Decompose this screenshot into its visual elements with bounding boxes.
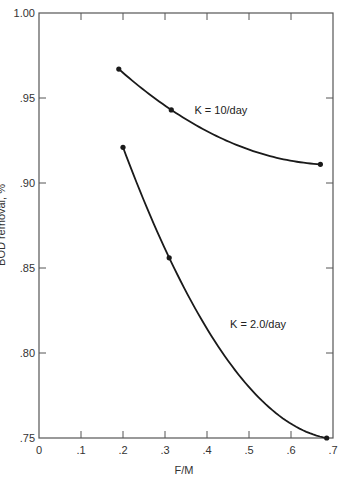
x-axis-ticks: 0.1.2.3.4.5.6.7 <box>36 13 338 456</box>
data-point <box>169 107 174 112</box>
x-tick-label: .5 <box>244 444 253 456</box>
curve-annotations: K = 10/dayK = 2.0/day <box>194 104 286 330</box>
y-tick-label: .80 <box>20 347 35 359</box>
bod-removal-chart: .75.80.85.90.951.00 0.1.2.3.4.5.6.7 K = … <box>0 0 344 484</box>
x-tick-label: 0 <box>36 444 42 456</box>
y-tick-label: 1.00 <box>14 7 35 19</box>
x-tick-label: .2 <box>118 444 127 456</box>
y-tick-label: .85 <box>20 262 35 274</box>
data-point <box>120 145 125 150</box>
x-tick-label: .3 <box>160 444 169 456</box>
data-point <box>167 255 172 260</box>
data-point <box>116 67 121 72</box>
plot-frame <box>39 13 333 438</box>
x-axis-title: F/M <box>175 464 194 476</box>
x-tick-label: .7 <box>328 444 337 456</box>
plot-border <box>39 13 333 438</box>
curve-label-1: K = 10/day <box>194 104 247 116</box>
x-tick-label: .6 <box>286 444 295 456</box>
data-points <box>116 67 329 441</box>
data-curves <box>119 69 327 438</box>
curve-series-2 <box>123 147 327 438</box>
x-tick-label: .4 <box>202 444 211 456</box>
x-tick-label: .1 <box>76 444 85 456</box>
curve-series-1 <box>119 69 321 164</box>
y-tick-label: .95 <box>20 92 35 104</box>
y-axis-title: BOD removal, % <box>0 184 7 266</box>
curve-label-2: K = 2.0/day <box>230 318 286 330</box>
y-tick-label: .75 <box>20 432 35 444</box>
y-tick-label: .90 <box>20 177 35 189</box>
y-axis-ticks: .75.80.85.90.951.00 <box>14 7 333 444</box>
data-point <box>318 162 323 167</box>
data-point <box>324 435 329 440</box>
